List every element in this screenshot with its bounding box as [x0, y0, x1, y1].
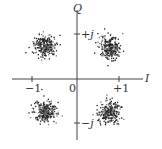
- tick-label-plus-1: +1: [113, 83, 129, 94]
- i-axis-label: I: [145, 73, 149, 84]
- symbol-points: [25, 28, 124, 125]
- axes: [12, 10, 143, 140]
- origin-label: 0: [69, 83, 76, 94]
- tick-label-plus-j: +j: [81, 29, 94, 40]
- q-axis-label: Q: [73, 3, 82, 14]
- tick-label-minus-1: −1: [25, 83, 41, 94]
- tick-label-minus-j: −j: [81, 118, 94, 129]
